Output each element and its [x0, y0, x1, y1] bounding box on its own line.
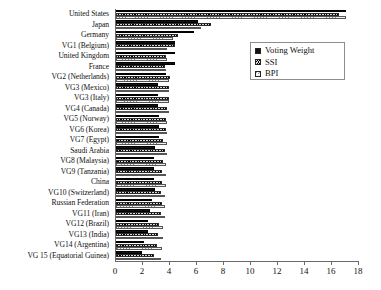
bar-group — [116, 114, 359, 125]
bar-group — [116, 251, 359, 262]
category-label: United Kingdom — [0, 51, 112, 62]
x-tick — [169, 261, 170, 265]
x-tick-label: 12 — [265, 266, 289, 277]
category-label: Germany — [0, 30, 112, 41]
category-label: VG9 (Tanzania) — [0, 167, 112, 178]
bar-ssi — [116, 223, 159, 226]
bar-group — [116, 20, 359, 31]
bar-vw — [116, 41, 175, 44]
bar-group — [116, 146, 359, 157]
bar-vw — [116, 20, 198, 23]
bar-ssi — [116, 139, 163, 142]
bar-vw — [116, 199, 152, 202]
category-label: Russian Federation — [0, 198, 112, 209]
bar-ssi — [116, 65, 165, 68]
x-tick-label: 16 — [319, 266, 343, 277]
bar-vw — [116, 209, 150, 212]
bar-bpi — [116, 79, 169, 82]
legend-label: BPI — [265, 69, 278, 78]
bar-ssi — [116, 13, 339, 16]
bar-bpi — [116, 195, 165, 198]
category-label: VG2 (Netherlands) — [0, 72, 112, 83]
bar-vw — [116, 167, 154, 170]
bar-group — [116, 240, 359, 251]
bar-bpi — [116, 153, 167, 156]
x-tick-label: 10 — [238, 266, 262, 277]
x-tick — [223, 261, 224, 265]
bar-bpi — [116, 27, 201, 30]
bar-bpi — [116, 90, 169, 93]
bar-vw — [116, 31, 194, 34]
category-label: China — [0, 177, 112, 188]
category-label: VG6 (Korea) — [0, 125, 112, 136]
x-tick — [277, 261, 278, 265]
x-axis-line — [115, 261, 359, 262]
bar-ssi — [116, 34, 178, 37]
bar-bpi — [116, 184, 166, 187]
bar-ssi — [116, 212, 161, 215]
bar-group — [116, 83, 359, 94]
category-axis: United StatesJapanGermanyVG1 (Belgium)Un… — [0, 9, 112, 261]
bar-chart: United StatesJapanGermanyVG1 (Belgium)Un… — [0, 0, 381, 290]
bar-bpi — [116, 58, 167, 61]
bar-ssi — [116, 23, 211, 26]
category-label: Japan — [0, 20, 112, 31]
category-label: VG10 (Switzerland) — [0, 188, 112, 199]
bar-group — [116, 135, 359, 146]
legend-item: SSI — [255, 57, 344, 68]
x-tick-label: 0 — [103, 266, 127, 277]
bar-bpi — [116, 121, 167, 124]
bar-bpi — [116, 100, 169, 103]
bar-vw — [116, 73, 166, 76]
legend-swatch-bpi — [255, 71, 261, 77]
bar-vw — [116, 83, 158, 86]
x-tick — [331, 261, 332, 265]
x-tick — [196, 261, 197, 265]
bar-ssi — [116, 118, 166, 121]
legend-label: SSI — [265, 58, 277, 67]
bar-ssi — [116, 76, 170, 79]
bar-ssi — [116, 233, 158, 236]
category-label: France — [0, 62, 112, 73]
category-label: VG 15 (Equatorial Guinea) — [0, 251, 112, 262]
legend-swatch-vw — [255, 48, 261, 54]
bar-bpi — [116, 111, 169, 114]
bar-group — [116, 93, 359, 104]
bar-ssi — [116, 160, 163, 163]
bar-vw — [116, 220, 148, 223]
bar-bpi — [116, 226, 163, 229]
category-label: VG4 (Canada) — [0, 104, 112, 115]
bar-group — [116, 177, 359, 188]
bar-vw — [116, 94, 158, 97]
bar-group — [116, 219, 359, 230]
category-label: VG8 (Malaysia) — [0, 156, 112, 167]
bar-bpi — [116, 48, 167, 51]
bar-bpi — [116, 205, 165, 208]
legend-item: Voting Weight — [255, 45, 344, 56]
bar-group — [116, 30, 359, 41]
category-label: VG12 (Brazil) — [0, 219, 112, 230]
bar-group — [116, 125, 359, 136]
category-label: VG7 (Egypt) — [0, 135, 112, 146]
bar-ssi — [116, 202, 162, 205]
category-label: VG14 (Argentina) — [0, 240, 112, 251]
legend-item: BPI — [255, 68, 344, 79]
category-label: VG13 (India) — [0, 230, 112, 241]
bar-group — [116, 104, 359, 115]
x-tick-label: 14 — [292, 266, 316, 277]
bar-vw — [116, 178, 154, 181]
bar-bpi — [116, 37, 173, 40]
category-label: United States — [0, 9, 112, 20]
bar-ssi — [116, 191, 161, 194]
bar-bpi — [116, 258, 161, 261]
bar-ssi — [116, 55, 166, 58]
bar-ssi — [116, 244, 157, 247]
category-label: Saudi Arabia — [0, 146, 112, 157]
bar-vw — [116, 251, 142, 254]
bar-ssi — [116, 170, 162, 173]
x-tick — [358, 261, 359, 265]
bar-vw — [116, 52, 175, 55]
bar-bpi — [116, 247, 162, 250]
bar-group — [116, 198, 359, 209]
bar-vw — [116, 136, 159, 139]
